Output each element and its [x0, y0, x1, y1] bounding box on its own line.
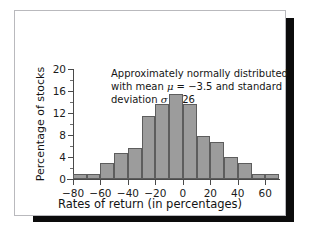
y-tick-minor — [70, 146, 73, 147]
x-tick-mark — [238, 180, 239, 185]
histogram-bar — [183, 104, 197, 179]
histogram-bar — [238, 163, 252, 180]
histogram-bar — [128, 148, 142, 179]
histogram-bar — [210, 142, 224, 179]
x-tick-mark — [73, 180, 74, 185]
plot-area: 048121620 −80−60−40−200204060 — [73, 69, 279, 179]
y-tick-label: 0 — [59, 173, 66, 185]
figure-root: Percentage of stocks Approximately norma… — [0, 0, 321, 234]
x-tick-mark — [210, 180, 211, 185]
y-tick-mark — [68, 157, 73, 158]
y-axis-line — [73, 69, 74, 180]
y-tick-label: 20 — [53, 63, 66, 75]
y-tick-minor — [70, 168, 73, 169]
figure-card: Percentage of stocks Approximately norma… — [14, 10, 286, 216]
histogram-bar — [73, 174, 87, 180]
x-axis-line — [67, 179, 280, 180]
x-axis-title: Rates of return (in percentages) — [15, 197, 285, 211]
histogram-bar — [114, 153, 128, 179]
x-tick-mark — [128, 180, 129, 185]
y-tick-minor — [70, 124, 73, 125]
figure-shadow-right — [286, 18, 294, 222]
y-tick-label: 12 — [53, 107, 66, 119]
y-tick-label: 16 — [53, 85, 66, 97]
y-tick-label: 8 — [59, 129, 66, 141]
x-tick-mark — [183, 180, 184, 185]
histogram-bar — [252, 174, 266, 180]
y-tick-minor — [70, 80, 73, 81]
y-tick-label: 4 — [59, 151, 66, 163]
y-tick-mark — [68, 91, 73, 92]
histogram-bar — [224, 157, 238, 179]
y-tick-mark — [68, 135, 73, 136]
x-tick-mark — [265, 180, 266, 185]
histogram-bar — [142, 116, 156, 179]
y-tick-minor — [70, 102, 73, 103]
histogram-bar — [197, 136, 211, 179]
histogram-bar — [265, 174, 279, 180]
x-tick-mark — [155, 180, 156, 185]
histogram-bar — [169, 94, 183, 179]
y-tick-mark — [68, 113, 73, 114]
histogram-bar — [87, 174, 101, 180]
y-tick-mark — [68, 69, 73, 70]
x-tick-mark — [100, 180, 101, 185]
histogram-bar — [100, 163, 114, 180]
histogram-bar — [155, 104, 169, 179]
